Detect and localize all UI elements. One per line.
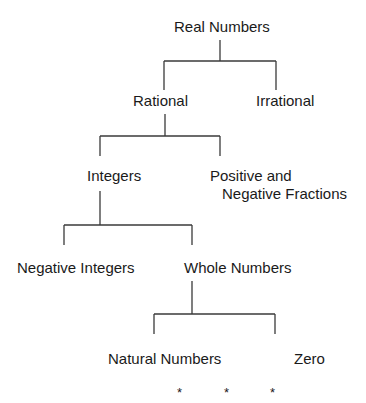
node-natural-numbers: Natural Numbers xyxy=(108,350,221,368)
node-fractions-line1: Positive and xyxy=(210,167,292,185)
node-negative-integers: Negative Integers xyxy=(17,259,135,277)
node-rational: Rational xyxy=(133,92,188,110)
node-whole-numbers: Whole Numbers xyxy=(184,259,292,277)
node-zero: Zero xyxy=(294,350,325,368)
node-real-numbers: Real Numbers xyxy=(174,18,270,36)
node-fractions-line2: Negative Fractions xyxy=(222,185,347,203)
node-integers: Integers xyxy=(87,167,141,185)
ellipsis-star-2: * xyxy=(224,386,229,399)
ellipsis-star-3: * xyxy=(270,386,275,399)
node-irrational: Irrational xyxy=(256,92,314,110)
ellipsis-star-1: * xyxy=(177,386,182,399)
